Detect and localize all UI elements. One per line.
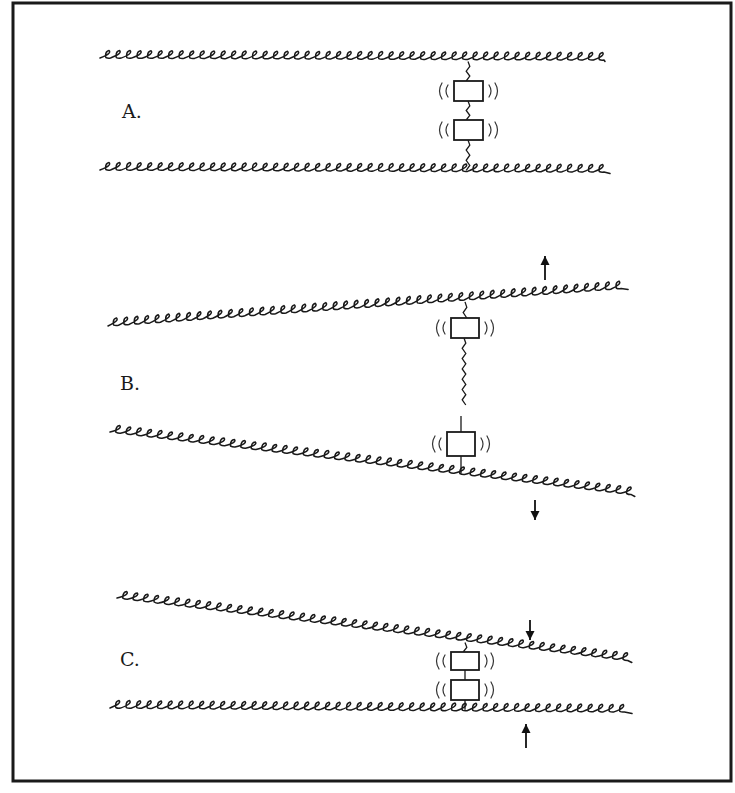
vibration-mark-icon — [437, 653, 440, 669]
vibration-mark-icon — [489, 124, 491, 136]
vibration-mark-icon — [485, 655, 487, 667]
vibration-mark-icon — [491, 682, 494, 698]
tether-stretched — [462, 338, 466, 405]
tether-middle — [466, 101, 470, 120]
vibration-mark-icon — [446, 85, 448, 97]
vibration-mark-icon — [433, 436, 436, 452]
vibration-mark-icon — [481, 438, 483, 450]
vibration-mark-icon — [487, 436, 490, 452]
vibration-mark-icon — [437, 320, 440, 336]
panel-b — [108, 256, 635, 520]
vibration-mark-icon — [489, 85, 491, 97]
panel-c — [110, 592, 632, 748]
vibration-mark-icon — [443, 684, 445, 696]
motor-block — [451, 652, 479, 670]
filament-top — [117, 592, 632, 663]
filament-bottom — [110, 701, 632, 714]
tether-top — [463, 302, 467, 318]
panel-label-b: B. — [120, 372, 140, 394]
panel-label-a: A. — [122, 100, 142, 122]
panel-label-c: C. — [120, 648, 140, 670]
vibration-mark-icon — [495, 83, 498, 99]
vibration-mark-icon — [485, 684, 487, 696]
filament-top — [100, 51, 605, 62]
filament-top — [108, 281, 628, 326]
panels-layer — [100, 51, 635, 749]
tether-top — [466, 61, 470, 81]
diagram-canvas — [0, 0, 735, 793]
vibration-mark-icon — [443, 322, 445, 334]
motor-block — [451, 318, 479, 338]
filament-bottom — [110, 426, 635, 497]
arrow-down-icon — [531, 500, 540, 520]
vibration-mark-icon — [437, 682, 440, 698]
filament-bottom — [100, 163, 610, 174]
arrow-up-icon — [541, 256, 550, 280]
tether-top — [463, 643, 467, 652]
motor-block — [454, 81, 483, 101]
vibration-mark-icon — [491, 653, 494, 669]
vibration-mark-icon — [439, 438, 441, 450]
vibration-mark-icon — [485, 322, 487, 334]
vibration-mark-icon — [491, 320, 494, 336]
motor-block — [454, 120, 483, 140]
vibration-mark-icon — [495, 122, 498, 138]
arrow-down-icon — [526, 620, 535, 640]
vibration-mark-icon — [440, 122, 443, 138]
vibration-mark-icon — [440, 83, 443, 99]
arrow-up-icon — [522, 724, 531, 748]
vibration-mark-icon — [443, 655, 445, 667]
motor-block — [447, 432, 475, 456]
diagram-figure: A. B. C. — [0, 0, 735, 793]
panel-a — [100, 51, 610, 174]
vibration-mark-icon — [446, 124, 448, 136]
motor-block — [451, 680, 479, 700]
